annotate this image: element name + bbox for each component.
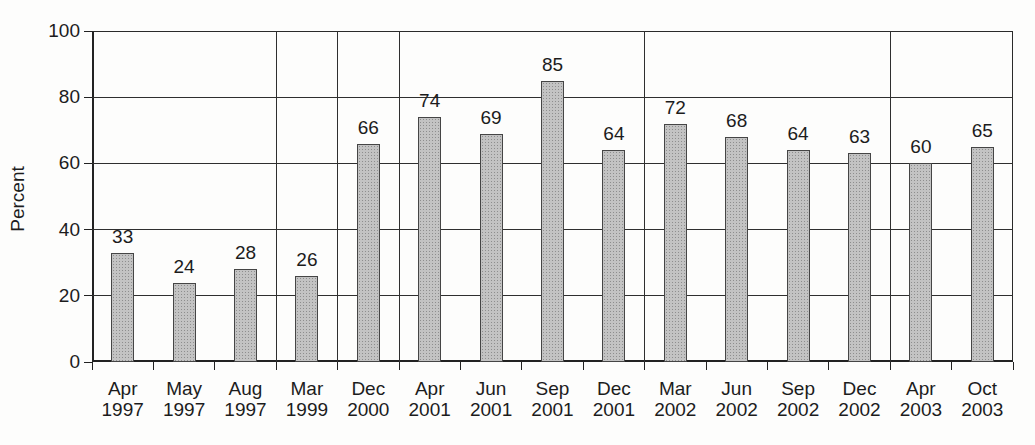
x-tick [153, 362, 154, 370]
x-tick [890, 362, 891, 370]
bar-value-label: 33 [93, 226, 153, 248]
bar [295, 276, 318, 362]
bar-value-label: 68 [707, 110, 767, 132]
bar-value-label: 26 [277, 249, 337, 271]
group-divider [276, 31, 277, 362]
category-label-line: Oct [942, 378, 1022, 399]
group-divider [399, 31, 400, 362]
bar-value-label: 64 [768, 123, 828, 145]
bar-value-label: 66 [338, 117, 398, 139]
bar [357, 144, 380, 362]
x-tick [1013, 362, 1014, 370]
category-label: Oct2003 [942, 378, 1022, 420]
bar-chart-figure: Percent 02040608010033Apr199724May199728… [0, 0, 1035, 445]
x-tick [460, 362, 461, 370]
x-tick [276, 362, 277, 370]
y-tick [84, 229, 92, 230]
bar [909, 163, 932, 362]
bar [111, 253, 134, 362]
bar-value-label: 65 [952, 120, 1012, 142]
bar [602, 150, 625, 362]
y-tick-label: 60 [28, 152, 80, 174]
y-tick [84, 295, 92, 296]
y-tick-label: 40 [28, 219, 80, 241]
x-tick [706, 362, 707, 370]
x-tick [583, 362, 584, 370]
x-tick [644, 362, 645, 370]
group-divider [337, 31, 338, 362]
y-tick-label: 20 [28, 285, 80, 307]
bar [173, 283, 196, 362]
bar [234, 269, 257, 362]
y-tick [84, 31, 92, 32]
bar-value-label: 74 [400, 90, 460, 112]
y-tick [84, 97, 92, 98]
bar [848, 153, 871, 362]
bar [541, 81, 564, 362]
y-axis-title: Percent [7, 109, 29, 289]
x-tick [828, 362, 829, 370]
group-divider [644, 31, 645, 362]
bar [480, 134, 503, 362]
y-tick-label: 100 [28, 20, 80, 42]
bar-value-label: 60 [891, 136, 951, 158]
x-tick [767, 362, 768, 370]
bar-value-label: 24 [154, 256, 214, 278]
group-divider [890, 31, 891, 362]
bar-value-label: 64 [584, 123, 644, 145]
y-tick-label: 0 [28, 351, 80, 373]
x-tick [521, 362, 522, 370]
bar [787, 150, 810, 362]
x-tick [214, 362, 215, 370]
bar-value-label: 72 [645, 97, 705, 119]
bar [971, 147, 994, 362]
y-tick [84, 163, 92, 164]
bar-value-label: 28 [216, 242, 276, 264]
bar [418, 117, 441, 362]
x-tick [399, 362, 400, 370]
bar [725, 137, 748, 362]
category-label-line: 2003 [942, 399, 1022, 420]
bar-value-label: 69 [461, 107, 521, 129]
x-tick [337, 362, 338, 370]
bar-value-label: 63 [830, 126, 890, 148]
x-tick [951, 362, 952, 370]
bar [664, 124, 687, 362]
bar-value-label: 85 [523, 54, 583, 76]
x-tick [92, 362, 93, 370]
y-tick-label: 80 [28, 86, 80, 108]
